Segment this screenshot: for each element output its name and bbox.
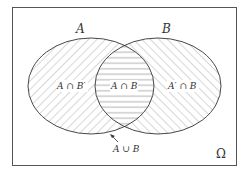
region-b-only-label: A′ ∩ B (167, 81, 197, 91)
universe-label: Ω (216, 147, 226, 161)
set-b-label: B (161, 22, 171, 36)
region-intersection-label: A ∩ B (110, 81, 138, 91)
region-a-only-label: A ∩ B′ (56, 81, 85, 91)
set-a-label: A (75, 22, 85, 36)
union-label: A ∪ B (112, 144, 140, 154)
venn-diagram: A B A ∩ B′ A ∩ B A′ ∩ B A ∪ B Ω (0, 0, 248, 176)
